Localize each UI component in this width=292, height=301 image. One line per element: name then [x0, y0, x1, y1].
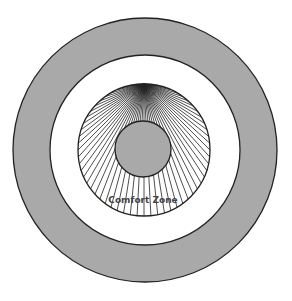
comfort-zone-diagram: Comfort Zone [0, 0, 292, 301]
comfort-zone-label: Comfort Zone [108, 195, 177, 205]
inner-core [115, 121, 171, 177]
